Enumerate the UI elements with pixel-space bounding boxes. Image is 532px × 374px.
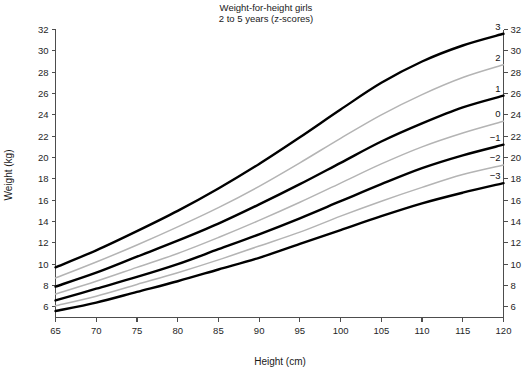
- x-axis-tick-label: 110: [414, 325, 429, 336]
- z-score-label--3: −3: [490, 170, 501, 181]
- y-axis-right-tick-label: 28: [511, 67, 522, 78]
- y-axis-right-tick-label: 32: [511, 24, 522, 35]
- curve-z-0: [56, 121, 504, 294]
- y-axis-left-tick-label: 8: [43, 280, 48, 291]
- y-axis-right-tick-label: 30: [511, 45, 522, 56]
- chart-subtitle: 2 to 5 years (z-scores): [219, 13, 314, 24]
- z-score-label-3: 3: [495, 21, 500, 32]
- y-axis-right-tick-label: 18: [511, 173, 522, 184]
- z-score-label-2: 2: [495, 52, 500, 63]
- y-axis-left-tick-label: 24: [38, 109, 49, 120]
- x-axis-tick-label: 75: [132, 325, 143, 336]
- z-score-label-0: 0: [495, 108, 500, 119]
- y-axis-right-ticks: 68101214161820222426283032: [504, 24, 522, 312]
- y-axis-right-tick-label: 26: [511, 88, 522, 99]
- curve-z--2: [56, 165, 504, 306]
- z-score-label--2: −2: [490, 152, 501, 163]
- y-axis-right-tick-label: 22: [511, 131, 522, 142]
- x-axis-tick-label: 90: [254, 325, 265, 336]
- y-axis-left-tick-label: 22: [38, 131, 49, 142]
- x-axis-tick-label: 100: [333, 325, 349, 336]
- y-axis-right-tick-label: 24: [511, 109, 522, 120]
- chart-canvas: Weight-for-height girls 2 to 5 years (z-…: [0, 0, 532, 374]
- y-axis-left-tick-label: 12: [38, 237, 49, 248]
- y-axis-left-ticks: 68101214161820222426283032: [38, 24, 56, 312]
- y-axis-left-tick-label: 10: [38, 259, 49, 270]
- z-score-label--1: −1: [490, 132, 501, 143]
- curve-group: [56, 34, 504, 311]
- y-axis-left-tick-label: 16: [38, 195, 49, 206]
- y-axis-left-tick-label: 6: [43, 301, 48, 312]
- y-axis-left-tick-label: 14: [38, 216, 49, 227]
- x-axis-tick-label: 80: [172, 325, 183, 336]
- x-axis-tick-label: 120: [496, 325, 512, 336]
- curve-z-2: [56, 65, 504, 278]
- curve-z--3: [56, 183, 504, 311]
- y-axis-right-tick-label: 6: [511, 301, 516, 312]
- y-axis-right-tick-label: 10: [511, 259, 522, 270]
- z-score-label-1: 1: [495, 83, 500, 94]
- curve-z-3: [56, 34, 504, 268]
- y-axis-right-tick-label: 20: [511, 152, 522, 163]
- y-axis-left-tick-label: 28: [38, 67, 49, 78]
- curve-z--1: [56, 145, 504, 301]
- x-axis-tick-label: 105: [373, 325, 389, 336]
- x-axis-tick-label: 115: [455, 325, 470, 336]
- y-axis-left-tick-label: 32: [38, 24, 49, 35]
- y-axis-right-tick-label: 14: [511, 216, 522, 227]
- y-axis-title: Weight (kg): [3, 150, 14, 201]
- x-axis-tick-label: 70: [91, 325, 102, 336]
- x-axis-title: Height (cm): [254, 356, 306, 367]
- y-axis-right-tick-label: 12: [511, 237, 522, 248]
- x-axis-tick-label: 85: [213, 325, 224, 336]
- y-axis-left-tick-label: 30: [38, 45, 49, 56]
- x-axis-ticks: 65707580859095100105110115120: [50, 318, 511, 336]
- x-axis-tick-label: 65: [50, 325, 61, 336]
- x-axis-tick-label: 95: [295, 325, 306, 336]
- curve-z-1: [56, 96, 504, 287]
- growth-chart: Weight-for-height girls 2 to 5 years (z-…: [0, 0, 532, 374]
- y-axis-right-tick-label: 16: [511, 195, 522, 206]
- y-axis-left-tick-label: 18: [38, 173, 49, 184]
- y-axis-right-tick-label: 8: [511, 280, 516, 291]
- z-score-label-group: 3210−1−2−3: [490, 21, 501, 181]
- y-axis-left-tick-label: 20: [38, 152, 49, 163]
- y-axis-left-tick-label: 26: [38, 88, 49, 99]
- chart-title: Weight-for-height girls: [220, 2, 313, 13]
- plot-frame: [56, 30, 504, 318]
